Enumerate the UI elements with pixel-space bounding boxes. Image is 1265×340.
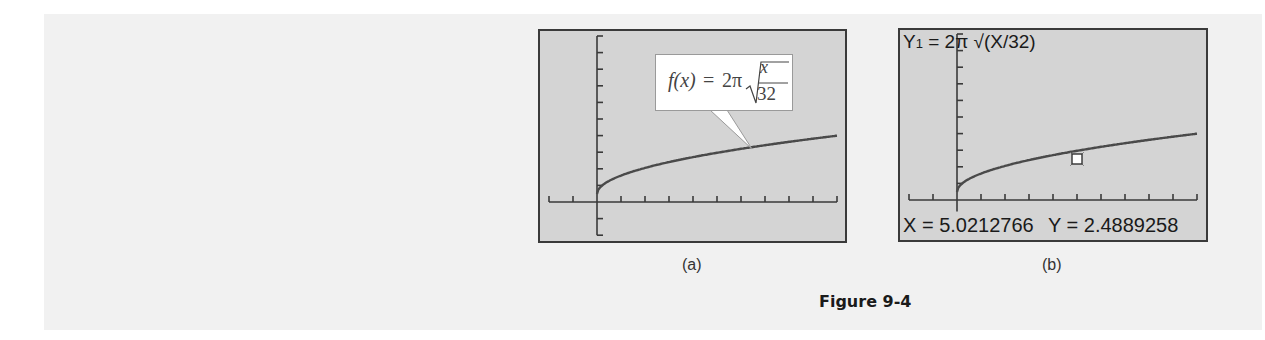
equation-label: Y1 = 2π √(X/32) bbox=[903, 31, 1036, 53]
panel-label-a: (a) bbox=[682, 256, 702, 274]
equation-subscript: 1 bbox=[916, 36, 923, 51]
graph-b bbox=[0, 0, 1265, 340]
axes-b bbox=[909, 34, 1197, 212]
equation-lhs: Y bbox=[903, 31, 916, 52]
panel-label-b: (b) bbox=[1042, 256, 1062, 274]
trace-x-value: X = 5.0212766 bbox=[903, 214, 1034, 237]
equation-rhs: = 2π √(X/32) bbox=[923, 31, 1036, 52]
figure-caption: Figure 9-4 bbox=[819, 292, 911, 311]
trace-y-value: Y = 2.4889258 bbox=[1048, 214, 1178, 237]
trace-cursor-icon bbox=[1070, 152, 1084, 166]
